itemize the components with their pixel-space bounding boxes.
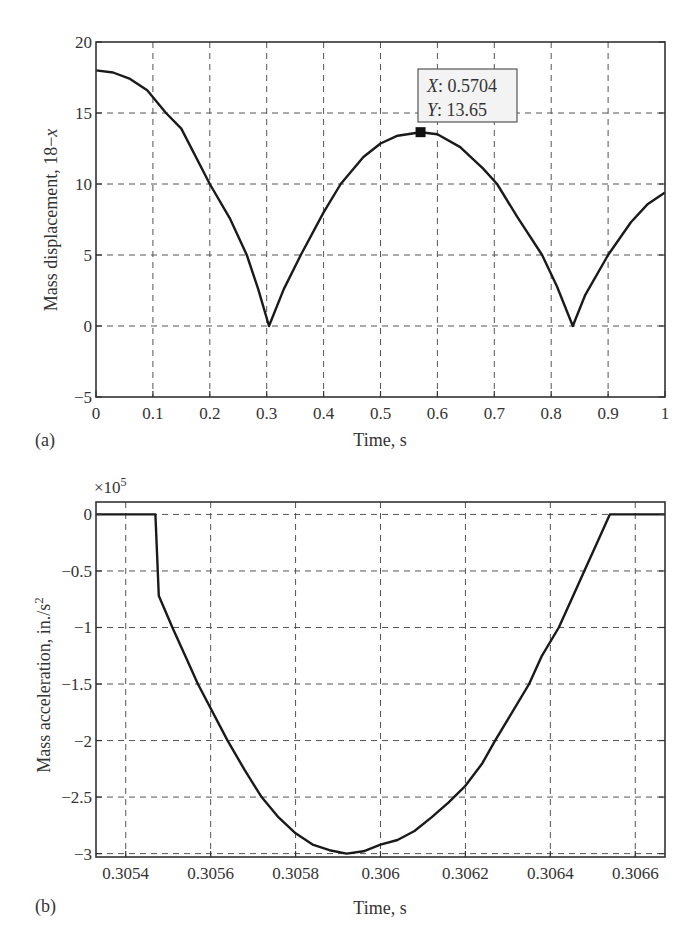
x-tick-label: 0.3056 [187,864,234,883]
figure-panel-a: 00.10.20.30.40.50.60.70.80.91−505101520 … [0,0,700,470]
y-tick-label: −5 [74,388,92,407]
y-axis-title-main: Mass displacement, 18− [41,137,61,312]
x-tick-label: 0.8 [541,404,562,423]
datatip-x-text: X: 0.5704 [426,76,497,96]
grid-lines [96,502,665,857]
datatip-y-text: Y: 13.65 [427,100,487,120]
y-axis-title: Mass acceleration, in./s2 [31,597,54,772]
tick-labels: 0.30540.30560.30580.3060.30620.30640.306… [61,505,665,883]
y-axis-title-var: x [41,129,61,138]
y-tick-label: −3 [74,845,92,864]
x-axis-title: Time, s [353,430,406,450]
y-axis-title-sup: 2 [31,597,46,604]
x-tick-label: 0.3 [256,404,277,423]
y-tick-label: 0 [84,317,93,336]
acceleration-chart: 0.30540.30560.30580.3060.30620.30640.306… [0,470,700,943]
grid-lines [96,42,665,397]
datatip-marker[interactable] [416,127,426,137]
panel-label: (a) [35,430,55,451]
x-tick-label: 0.9 [597,404,618,423]
y-tick-label: 20 [75,33,92,52]
exponent-base: ×10 [94,478,121,497]
x-tick-label: 0.1 [142,404,163,423]
x-tick-label: 0.3062 [442,864,489,883]
tick-labels: 00.10.20.30.40.50.60.70.80.91−505101520 [74,33,669,423]
y-tick-label: 5 [84,246,93,265]
x-tick-label: 0.3058 [272,864,319,883]
y-exponent-label: ×105 [94,475,127,497]
y-tick-label: −0.5 [61,562,92,581]
y-tick-label: −2 [74,732,92,751]
y-axis-title-main: Mass acceleration, in./s [34,604,54,773]
y-tick-label: −1 [74,618,92,637]
x-tick-label: 0.3054 [102,864,149,883]
x-tick-label: 0.6 [427,404,448,423]
x-tick-label: 0.5 [370,404,391,423]
x-axis-title: Time, s [353,898,406,918]
datatip-x-value: : 0.5704 [438,76,497,96]
datatip[interactable]: X: 0.5704 Y: 13.65 [416,69,517,137]
x-tick-label: 0.2 [199,404,220,423]
y-tick-label: 0 [84,505,93,524]
x-tick-label: 0.3064 [527,864,574,883]
datatip-y-value: : 13.65 [437,100,487,120]
y-tick-label: 10 [75,175,92,194]
x-tick-label: 0.7 [484,404,506,423]
x-tick-label: 0.306 [361,864,399,883]
x-tick-label: 0 [92,404,101,423]
y-tick-label: −1.5 [61,675,92,694]
x-tick-label: 0.3066 [612,864,659,883]
x-tick-label: 0.4 [313,404,335,423]
y-axis-title: Mass displacement, 18−x [41,129,61,312]
y-tick-label: 15 [75,104,92,123]
panel-label: (b) [35,896,56,917]
exponent-power: 5 [121,475,127,489]
y-tick-label: −2.5 [61,788,92,807]
x-tick-label: 1 [661,404,670,423]
displacement-chart: 00.10.20.30.40.50.60.70.80.91−505101520 … [0,0,700,470]
figure-panel-b: 0.30540.30560.30580.3060.30620.30640.306… [0,470,700,943]
